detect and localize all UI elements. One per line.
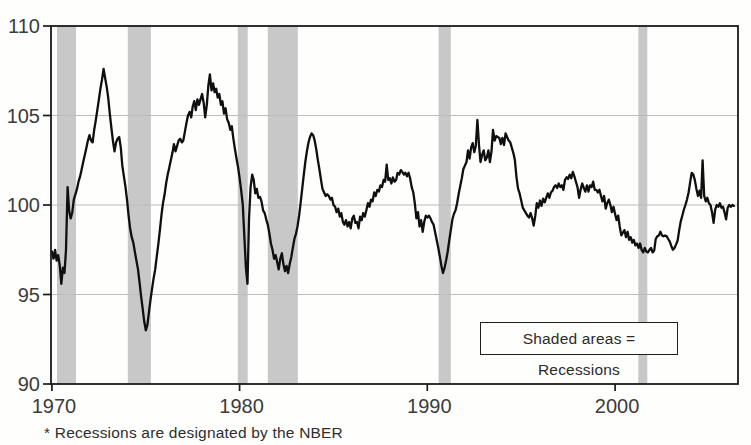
x-axis-tick-label: 1970 <box>32 395 77 417</box>
x-axis-tick-label: 2000 <box>595 395 640 417</box>
x-axis-tick-label: 1980 <box>219 395 264 417</box>
footnote: * Recessions are designated by the NBER <box>44 424 343 442</box>
footnote-text: * Recessions are designated by the NBER <box>44 424 343 441</box>
plot-area: 11010510095901970198019902000 <box>0 0 751 445</box>
legend-label: Shaded areas = Recessions <box>523 330 636 378</box>
y-axis-tick-label: 105 <box>7 105 40 127</box>
recession-index-chart: 11010510095901970198019902000 Shaded are… <box>0 0 751 445</box>
y-axis-tick-label: 100 <box>7 194 40 216</box>
legend-box: Shaded areas = Recessions <box>480 322 678 355</box>
x-axis-tick-label: 1990 <box>407 395 452 417</box>
y-axis-tick-label: 90 <box>18 373 40 395</box>
y-axis-tick-label: 110 <box>8 15 40 37</box>
data-line <box>52 69 734 330</box>
y-axis-tick-label: 95 <box>18 284 40 306</box>
